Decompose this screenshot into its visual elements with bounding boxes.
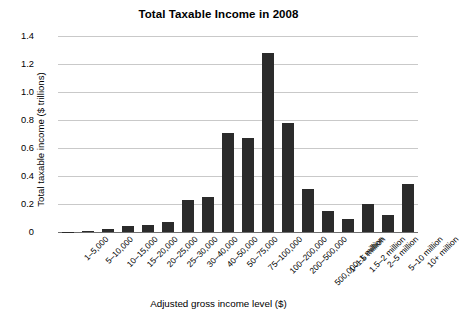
bar [342,219,354,232]
x-axis-tick-labels: 1–5,0005–10,00010–15,00015–20,00020–25,0… [58,234,418,304]
y-axis-tick-label: 0.6 [0,143,34,153]
bar [262,53,274,232]
bar [122,226,134,232]
y-axis-tick-label: 0.8 [0,115,34,125]
bar [402,184,414,232]
bar [202,197,214,232]
bar [382,215,394,232]
bar [362,204,374,232]
y-axis-tick-label: 1.2 [0,59,34,69]
y-axis-title: Total taxable income ($ trillions) [35,40,46,240]
bar [282,123,294,232]
bar [182,200,194,232]
plot-area: 1.41.21.00.80.60.40.20 [58,36,418,232]
bar [142,225,154,232]
bar [102,229,114,232]
y-axis-tick-label: 0 [0,227,34,237]
x-axis-line [58,232,418,233]
y-axis-tick-label: 1.4 [0,31,34,41]
chart-title: Total Taxable Income in 2008 [0,8,437,20]
bar [242,138,254,232]
bar [82,231,94,232]
y-axis-tick-label: 0.2 [0,199,34,209]
bars-group [58,36,418,232]
bar [162,222,174,232]
bar [222,133,234,232]
y-axis-tick-label: 1.0 [0,87,34,97]
bar [302,189,314,232]
y-axis-tick-label: 0.4 [0,171,34,181]
bar [322,211,334,232]
x-axis-title: Adjusted gross income level ($) [0,298,437,309]
